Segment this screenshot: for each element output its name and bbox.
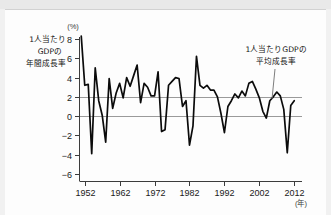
left-annotation-line-3: 年間成長率 [26, 58, 66, 68]
right-annotation-line-1: 1人当たりGDPの [245, 44, 306, 54]
x-tick-label-2012: 2012 [284, 188, 304, 198]
right-annotation: 1人当たりGDPの 平均成長率 [245, 44, 306, 99]
y-tick-label-8: 8 [67, 35, 72, 45]
x-axis: 1952196219721982199220022012 (年) [75, 182, 307, 209]
gdp-growth-line-chart: 86420−2−4−6 (%) 195219621972198219922002… [0, 0, 331, 215]
y-tick-label--2: −2 [62, 131, 72, 141]
y-tick-label-2: 2 [67, 93, 72, 103]
y-tick-label--4: −4 [62, 151, 72, 161]
x-axis-ticks [86, 182, 295, 187]
y-tick-label--6: −6 [62, 170, 72, 180]
y-tick-label-0: 0 [67, 112, 72, 122]
x-tick-label-1972: 1972 [145, 188, 165, 198]
y-axis-ticks [75, 40, 80, 175]
x-tick-label-1992: 1992 [214, 188, 234, 198]
x-axis-tick-labels: 1952196219721982199220022012 [75, 188, 304, 198]
x-tick-label-1952: 1952 [75, 188, 95, 198]
x-tick-label-2002: 2002 [249, 188, 269, 198]
left-annotation: 1人当たり GDPの 年間成長率 [26, 34, 66, 68]
x-tick-label-1962: 1962 [110, 188, 130, 198]
y-tick-label-6: 6 [67, 54, 72, 64]
y-tick-label-4: 4 [67, 74, 72, 84]
x-tick-label-1982: 1982 [179, 188, 199, 198]
left-annotation-line-2: GDPの [38, 47, 62, 56]
y-axis-unit-label: (%) [67, 22, 79, 31]
y-axis-tick-labels: 86420−2−4−6 [62, 35, 72, 180]
x-axis-unit-label: (年) [295, 198, 307, 208]
figure-container: 86420−2−4−6 (%) 195219621972198219922002… [0, 0, 331, 215]
left-annotation-line-1: 1人当たり [29, 34, 66, 44]
right-annotation-line-2: 平均成長率 [256, 56, 296, 66]
y-axis: 86420−2−4−6 (%) [62, 22, 80, 181]
